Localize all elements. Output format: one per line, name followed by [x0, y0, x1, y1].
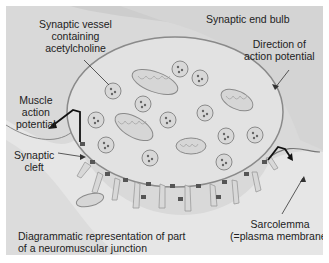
- caption: Diagrammatic representation of part of a…: [18, 230, 186, 254]
- direction-line-2: action potential: [244, 50, 315, 62]
- synaptic-vessel-line-3: acetylcholine: [39, 42, 112, 54]
- synaptic-vessel-label: Synaptic vessel containing acetylcholine: [39, 18, 112, 54]
- synaptic-cleft-line-1: Synaptic: [14, 149, 54, 161]
- sarcolemma-line-2: (=plasma membrane): [230, 230, 323, 242]
- synaptic-end-bulb-label: Synaptic end bulb: [206, 13, 289, 25]
- diagram-panel: Synaptic vessel containing acetylcholine…: [6, 6, 323, 255]
- sarcolemma-label: Sarcolemma (=plasma membrane): [230, 218, 323, 242]
- synaptic-cleft-label: Synaptic cleft: [14, 149, 54, 173]
- muscle-ap-line-3: potential: [16, 118, 56, 130]
- synaptic-cleft-line-2: cleft: [14, 161, 54, 173]
- synaptic-vessel-line-2: containing: [39, 30, 112, 42]
- muscle-action-potential-label: Muscle action potential: [16, 94, 56, 130]
- caption-line-2: of a neuromuscular junction: [18, 242, 186, 254]
- sarcolemma-line-1: Sarcolemma: [230, 218, 323, 230]
- muscle-ap-line-1: Muscle: [16, 94, 56, 106]
- synaptic-vessel-line-1: Synaptic vessel: [39, 18, 112, 30]
- direction-label: Direction of action potential: [244, 38, 315, 62]
- muscle-ap-line-2: action: [16, 106, 56, 118]
- direction-line-1: Direction of: [244, 38, 315, 50]
- caption-line-1: Diagrammatic representation of part: [18, 230, 186, 242]
